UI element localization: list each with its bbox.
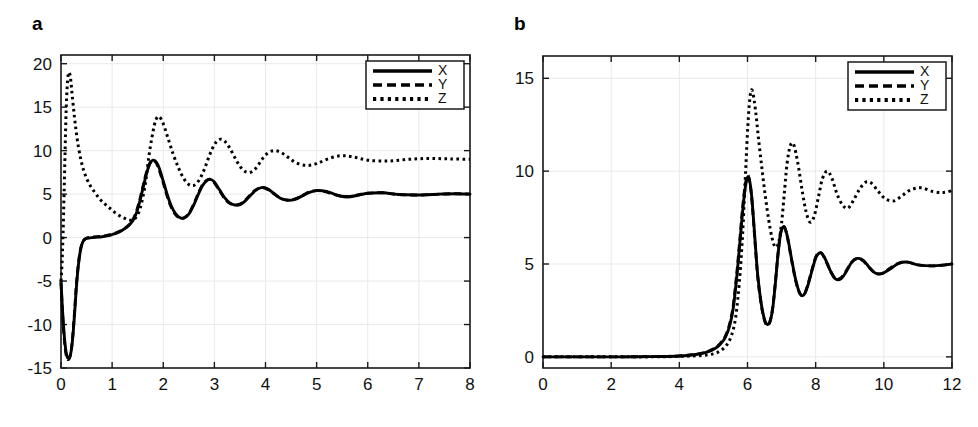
x-tick-label: 12 [943, 375, 962, 394]
y-tick-label: 15 [33, 98, 52, 117]
panel-b: b 024681012051015XYZ [489, 0, 978, 427]
y-tick-label: 10 [33, 142, 52, 161]
x-tick-label: 8 [465, 375, 474, 394]
y-tick-label: 5 [43, 185, 52, 204]
x-tick-label: 6 [743, 375, 752, 394]
legend: XYZ [366, 61, 464, 109]
x-tick-label: 2 [159, 375, 168, 394]
panel-a: a 012345678-15-10-505101520XYZ [0, 0, 489, 427]
x-tick-label: 10 [874, 375, 893, 394]
x-tick-label: 4 [675, 375, 684, 394]
y-tick-label: -5 [37, 272, 52, 291]
y-tick-label: 0 [525, 348, 534, 367]
y-tick-label: 10 [515, 162, 534, 181]
legend: XYZ [848, 62, 946, 110]
x-tick-label: 0 [56, 375, 65, 394]
x-tick-label: 3 [210, 375, 219, 394]
y-tick-label: 0 [43, 229, 52, 248]
x-tick-label: 4 [261, 375, 270, 394]
x-tick-label: 1 [107, 375, 116, 394]
legend-label-z: Z [438, 90, 447, 106]
y-tick-label: 15 [515, 69, 534, 88]
x-tick-label: 8 [811, 375, 820, 394]
figure-root: a 012345678-15-10-505101520XYZ b 0246810… [0, 0, 978, 427]
x-tick-label: 5 [312, 375, 321, 394]
x-tick-label: 0 [538, 375, 547, 394]
x-tick-label: 7 [414, 375, 423, 394]
x-tick-label: 6 [363, 375, 372, 394]
panel-a-plot: 012345678-15-10-505101520XYZ [0, 0, 489, 427]
legend-label-z: Z [920, 91, 929, 107]
panel-b-plot: 024681012051015XYZ [489, 0, 978, 427]
y-tick-label: -15 [27, 359, 52, 378]
y-tick-label: 20 [33, 55, 52, 74]
y-tick-label: -10 [27, 316, 52, 335]
y-tick-label: 5 [525, 255, 534, 274]
x-tick-label: 2 [606, 375, 615, 394]
